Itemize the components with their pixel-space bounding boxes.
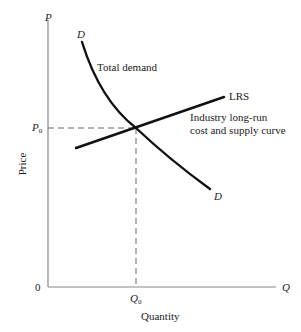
x-axis-symbol: Q (282, 282, 290, 293)
equilibrium-price-label: P0 (32, 122, 42, 135)
price-label-base: P (32, 121, 39, 133)
lrs-description: Industry long-run cost and supply curve (190, 111, 286, 137)
quantity-label-sub: 0 (138, 298, 142, 306)
quantity-label-base: Q (130, 292, 138, 304)
y-axis-title: Price (16, 144, 28, 184)
demand-end-label: D (214, 191, 222, 202)
origin-label: 0 (35, 282, 41, 293)
x-axis-title: Quantity (141, 311, 180, 322)
price-label-sub: 0 (39, 127, 43, 135)
lrs-label: LRS (229, 91, 249, 102)
demand-start-label: D (77, 29, 85, 40)
market-diagram (0, 0, 301, 332)
y-axis-symbol: P (45, 12, 52, 23)
equilibrium-quantity-label: Q0 (130, 293, 141, 306)
total-demand-label: Total demand (97, 62, 157, 73)
